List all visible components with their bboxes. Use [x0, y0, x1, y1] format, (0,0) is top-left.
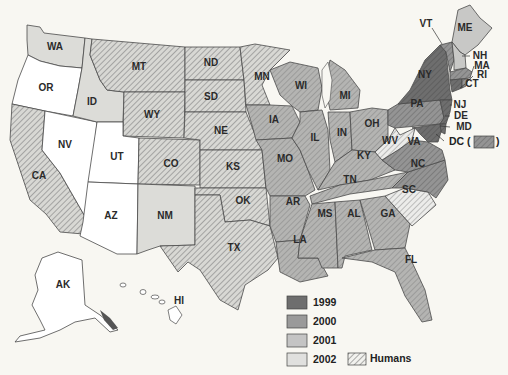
legend-item-2001: 2001 — [287, 334, 337, 347]
legend-label: 2002 — [313, 353, 337, 365]
label-MO: MO — [277, 153, 293, 164]
label-KS: KS — [226, 161, 240, 172]
legend-swatch — [287, 315, 307, 328]
label-MI: MI — [339, 90, 350, 101]
label-ND: ND — [204, 57, 218, 68]
label-VA: VA — [407, 136, 420, 147]
label-DC-suffix: ) — [496, 135, 500, 147]
state-HI — [120, 283, 182, 324]
legend-swatch — [287, 353, 307, 366]
label-MN: MN — [254, 71, 270, 82]
label-NM: NM — [157, 210, 173, 221]
label-NY: NY — [418, 69, 432, 80]
label-MD: MD — [456, 121, 472, 132]
label-WY: WY — [144, 109, 160, 120]
legend-label: Humans — [370, 352, 412, 364]
state-CT — [450, 79, 462, 92]
label-GA: GA — [381, 208, 396, 219]
us-map: WA OR CA NV ID MT WY UT AZ CO NM ND SD N… — [0, 0, 508, 375]
label-UT: UT — [110, 151, 123, 162]
label-NV: NV — [58, 139, 72, 150]
legend-item-2000: 2000 — [287, 315, 337, 328]
label-VT: VT — [420, 18, 433, 29]
legend-label: 2001 — [313, 334, 337, 346]
label-LA: LA — [293, 234, 306, 245]
label-NC: NC — [411, 158, 425, 169]
legend-item-1999: 1999 — [287, 296, 337, 309]
label-MT: MT — [132, 61, 146, 72]
label-HI: HI — [174, 295, 184, 306]
label-SD: SD — [204, 91, 218, 102]
label-DE: DE — [454, 110, 468, 121]
label-WV: WV — [382, 135, 398, 146]
legend-label: 2000 — [313, 315, 337, 327]
state-FL — [342, 248, 432, 322]
label-IN: IN — [337, 127, 347, 138]
legend: 1999 2000 2001 2002 Humans — [287, 296, 412, 366]
state-AK — [15, 252, 118, 342]
label-MS: MS — [318, 208, 333, 219]
label-AK: AK — [56, 279, 71, 290]
label-ID: ID — [87, 96, 97, 107]
legend-label: 1999 — [313, 296, 337, 308]
label-DC-prefix: DC ( — [449, 135, 471, 147]
label-OH: OH — [365, 118, 380, 129]
label-KY: KY — [357, 150, 371, 161]
label-AL: AL — [347, 208, 360, 219]
legend-swatch-hatch — [348, 353, 366, 365]
label-TN: TN — [343, 174, 356, 185]
label-CO: CO — [164, 158, 179, 169]
label-PA: PA — [410, 98, 423, 109]
label-TX: TX — [228, 242, 241, 253]
legend-swatch — [287, 334, 307, 347]
label-WI: WI — [295, 80, 307, 91]
label-WA: WA — [47, 41, 63, 52]
label-OK: OK — [236, 195, 252, 206]
label-NE: NE — [214, 125, 228, 136]
label-ME: ME — [458, 22, 473, 33]
label-NJ: NJ — [454, 99, 467, 110]
legend-item-humans: Humans — [348, 352, 412, 365]
label-AR: AR — [286, 196, 301, 207]
legend-item-2002: 2002 — [287, 353, 337, 366]
label-AZ: AZ — [104, 210, 117, 221]
label-FL: FL — [405, 254, 417, 265]
label-CT: CT — [465, 78, 478, 89]
label-IA: IA — [269, 114, 279, 125]
dc-swatch — [474, 136, 494, 148]
label-OR: OR — [39, 82, 55, 93]
label-SC: SC — [402, 184, 416, 195]
label-CA: CA — [32, 170, 46, 181]
label-IL: IL — [311, 132, 320, 143]
legend-swatch — [287, 296, 307, 309]
